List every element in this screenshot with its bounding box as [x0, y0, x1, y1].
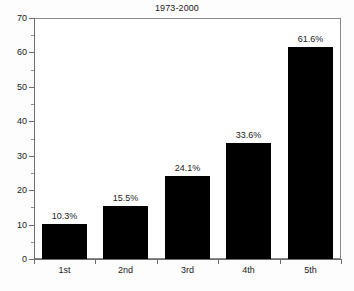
bar[interactable] [288, 47, 333, 259]
bar-value-label: 10.3% [34, 212, 95, 221]
y-tick-label: 50 [3, 83, 27, 92]
y-tick-minor [31, 173, 34, 174]
y-tick-label: 60 [3, 48, 27, 57]
y-tick-major [29, 225, 34, 226]
y-tick-minor [31, 242, 34, 243]
y-tick-minor [31, 35, 34, 36]
y-tick-major [29, 121, 34, 122]
x-tick [341, 260, 342, 264]
y-tick-major [29, 87, 34, 88]
bar-value-label: 61.6% [280, 35, 341, 44]
y-tick-label: 70 [3, 14, 27, 23]
y-tick-label: 30 [3, 152, 27, 161]
y-tick-minor [31, 207, 34, 208]
y-tick-label: 10 [3, 221, 27, 230]
y-tick-minor [31, 70, 34, 71]
y-tick-major [29, 52, 34, 53]
x-tick-label: 2nd [95, 266, 156, 275]
x-tick [95, 260, 96, 264]
y-tick-major [29, 156, 34, 157]
x-tick-label: 3rd [157, 266, 218, 275]
bar[interactable] [226, 143, 271, 259]
y-tick-label: 0 [3, 255, 27, 264]
bar-value-label: 33.6% [218, 131, 279, 140]
x-tick [157, 260, 158, 264]
y-tick-minor [31, 104, 34, 105]
bar-chart: 1973-2000 010203040506070 1st2nd3rd4th5t… [0, 0, 354, 291]
y-tick-label: 40 [3, 117, 27, 126]
x-tick-label: 4th [218, 266, 279, 275]
chart-title: 1973-2000 [0, 3, 354, 13]
bar[interactable] [103, 206, 148, 259]
y-tick-major [29, 190, 34, 191]
bar-value-label: 24.1% [157, 164, 218, 173]
x-axis-line [34, 259, 342, 260]
x-tick-label: 5th [280, 266, 341, 275]
y-tick-label: 20 [3, 186, 27, 195]
bar[interactable] [165, 176, 210, 259]
x-tick [280, 260, 281, 264]
x-tick [218, 260, 219, 264]
y-axis-line [34, 18, 35, 260]
x-tick-label: 1st [34, 266, 95, 275]
bar[interactable] [42, 224, 87, 259]
y-tick-major [29, 18, 34, 19]
y-tick-minor [31, 139, 34, 140]
bar-value-label: 15.5% [95, 194, 156, 203]
x-tick [34, 260, 35, 264]
